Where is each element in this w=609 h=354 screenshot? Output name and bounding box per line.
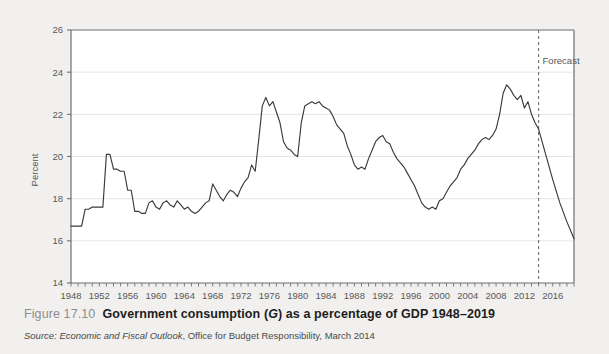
figure-source: Source: Economic and Fiscal Outlook, Off… bbox=[24, 330, 375, 341]
source-label: Source: bbox=[24, 330, 57, 341]
x-tick-label-2000: 2000 bbox=[429, 290, 450, 301]
x-tick-label-1988: 1988 bbox=[344, 290, 365, 301]
figure-caption: Figure 17.10 Government consumption (G) … bbox=[24, 307, 495, 321]
x-tick-label-1992: 1992 bbox=[372, 290, 393, 301]
x-tick-label-1956: 1956 bbox=[117, 290, 138, 301]
y-tick-label-14: 14 bbox=[52, 277, 63, 288]
x-tick-label-1952: 1952 bbox=[89, 290, 110, 301]
y-tick-label-24: 24 bbox=[52, 67, 63, 78]
forecast-annotation-label: Forecast bbox=[543, 55, 580, 66]
x-tick-label-2004: 2004 bbox=[457, 290, 478, 301]
figure-container: 14161820222426 1948195219561960196419681… bbox=[0, 0, 609, 354]
x-tick-label-1968: 1968 bbox=[202, 290, 223, 301]
source-title: Economic and Fiscal Outlook bbox=[59, 330, 182, 341]
figure-title-part1: Government consumption ( bbox=[103, 307, 269, 321]
x-tick-label-2016: 2016 bbox=[542, 290, 563, 301]
figure-title-part2: ) as a percentage of GDP 1948–2019 bbox=[278, 307, 495, 321]
figure-number: Figure 17.10 bbox=[24, 307, 95, 321]
figure-title-symbol: G bbox=[268, 307, 278, 321]
caption-area: Figure 17.10 Government consumption (G) … bbox=[0, 300, 609, 354]
source-rest: , Office for Budget Responsibility, Marc… bbox=[182, 330, 374, 341]
line-chart: 14161820222426 1948195219561960196419681… bbox=[0, 0, 609, 300]
y-tick-label-20: 20 bbox=[52, 151, 63, 162]
x-tick-label-1984: 1984 bbox=[315, 290, 336, 301]
x-tick-label-1964: 1964 bbox=[174, 290, 195, 301]
x-tick-label-1960: 1960 bbox=[145, 290, 166, 301]
x-tick-label-1976: 1976 bbox=[259, 290, 280, 301]
x-tick-label-1972: 1972 bbox=[230, 290, 251, 301]
y-tick-label-16: 16 bbox=[52, 235, 63, 246]
x-tick-label-2012: 2012 bbox=[514, 290, 535, 301]
x-tick-label-1980: 1980 bbox=[287, 290, 308, 301]
y-tick-label-26: 26 bbox=[52, 24, 63, 35]
chart-area: 14161820222426 1948195219561960196419681… bbox=[0, 0, 609, 300]
y-tick-label-22: 22 bbox=[52, 109, 63, 120]
figure-title: Government consumption (G) as a percenta… bbox=[103, 307, 496, 321]
x-tick-label-1948: 1948 bbox=[60, 290, 81, 301]
y-axis-title: Percent bbox=[29, 153, 40, 186]
x-tick-label-2008: 2008 bbox=[486, 290, 507, 301]
y-tick-label-18: 18 bbox=[52, 193, 63, 204]
x-tick-label-1996: 1996 bbox=[400, 290, 421, 301]
